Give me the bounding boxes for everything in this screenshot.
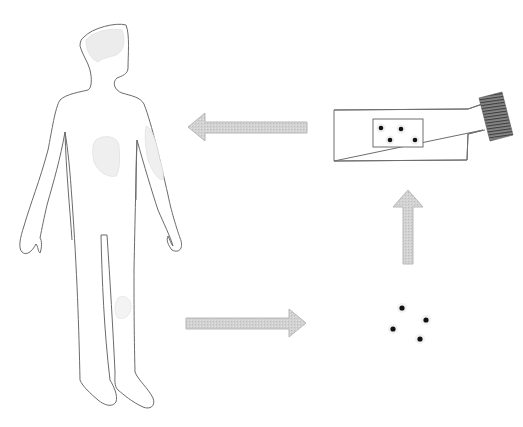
arrow-left-strip-to-body xyxy=(188,113,307,141)
body-outline xyxy=(20,24,182,408)
well-dot xyxy=(379,126,384,131)
cell-dot xyxy=(399,305,404,310)
diagram-canvas xyxy=(0,0,523,427)
connector-line-bottom xyxy=(468,130,485,134)
well-dot xyxy=(388,138,393,143)
well-dot xyxy=(413,138,418,143)
well-dot xyxy=(399,127,404,132)
arrow-right-shape xyxy=(186,309,306,337)
arrow-up-shape xyxy=(393,190,423,264)
cell-dot xyxy=(423,317,428,322)
cell-dot xyxy=(417,336,422,341)
arrow-right-body-to-cells xyxy=(186,309,306,337)
cell-dot xyxy=(390,326,395,331)
arrow-left-shape xyxy=(188,113,307,141)
arrow-up-cells-to-strip xyxy=(393,190,423,264)
strip-connector-pad xyxy=(479,92,513,141)
right-arm-inner-line xyxy=(136,140,137,200)
diagram-svg xyxy=(0,0,523,427)
test-strip xyxy=(334,92,513,161)
human-body xyxy=(20,24,182,408)
cells-group xyxy=(388,303,431,344)
